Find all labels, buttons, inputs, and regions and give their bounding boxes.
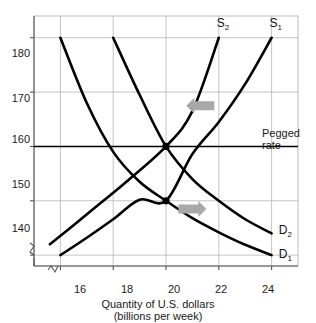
- x-tick-label-16: 16: [68, 283, 92, 295]
- y-tick-label-180: 180: [0, 47, 30, 59]
- x-tick-label-20: 20: [162, 283, 186, 295]
- x-tick-label-24: 24: [256, 283, 280, 295]
- y-tick-label-150: 150: [0, 178, 30, 190]
- curve-label-d1: D1: [279, 247, 292, 263]
- chart-svg: [0, 0, 316, 323]
- grid-layer: [34, 16, 298, 266]
- y-tick-label-140: 140: [0, 222, 30, 234]
- equilibrium-point-upper: [162, 143, 169, 150]
- curve-demand-2: [113, 38, 271, 234]
- supply-shift-arrow: [186, 98, 214, 114]
- demand-shift-arrow: [178, 201, 206, 217]
- x-tick-label-22: 22: [209, 283, 233, 295]
- y-tick-label-170: 170: [0, 92, 30, 104]
- chart-figure: 180 170 160 150 140 16 18 20 22 24 Quant…: [0, 0, 316, 323]
- curve-label-d2: D2: [279, 223, 292, 239]
- pegged-rate-label-line2: rate: [262, 139, 281, 151]
- curve-label-s2: S2: [217, 16, 229, 32]
- curve-label-s1: S1: [270, 16, 282, 32]
- x-axis-subtitle: (billions per week): [0, 310, 316, 322]
- x-axis-break-mark: [48, 266, 58, 272]
- x-tick-label-18: 18: [115, 283, 139, 295]
- y-axis-break-mark: [30, 243, 34, 255]
- pegged-rate-label-line1: Pegged: [262, 127, 300, 139]
- x-axis-title: Quantity of U.S. dollars: [0, 298, 316, 310]
- equilibrium-point-lower: [162, 197, 169, 204]
- y-tick-label-160: 160: [0, 133, 30, 145]
